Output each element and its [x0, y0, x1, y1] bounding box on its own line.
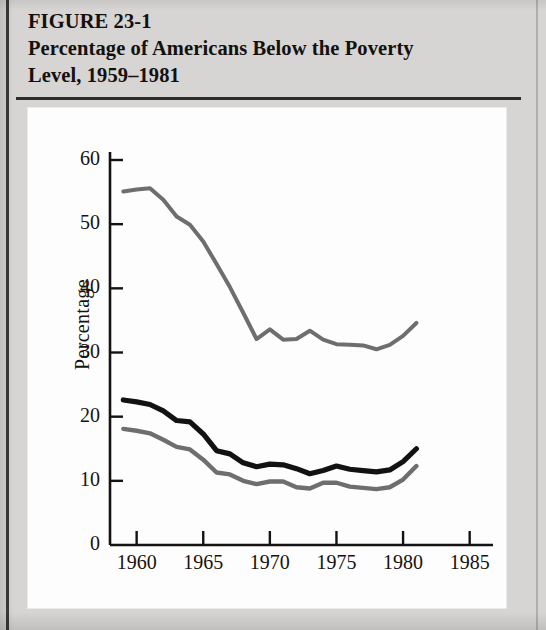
y-tick-label: 10 — [54, 468, 100, 491]
y-tick-label: 20 — [54, 404, 100, 427]
x-tick-label: 1960 — [102, 551, 172, 574]
series-upper-gray-line — [123, 188, 416, 349]
figure-caption-line-1: Percentage of Americans Below the Povert… — [28, 35, 498, 62]
figure-caption-line-2: Level, 1959–1981 — [28, 62, 498, 89]
x-tick-label: 1965 — [168, 551, 238, 574]
y-tick-label: 60 — [54, 147, 100, 170]
page-left-rule — [6, 0, 9, 630]
y-tick-label: 30 — [54, 340, 100, 363]
y-tick-label: 0 — [54, 532, 100, 555]
y-tick-label: 50 — [54, 211, 100, 234]
series-middle-black-line — [123, 400, 416, 474]
x-tick-label: 1980 — [368, 551, 438, 574]
x-tick-label: 1970 — [235, 551, 305, 574]
page-right-rule — [536, 0, 538, 630]
figure-label: FIGURE 23-1 — [28, 8, 498, 35]
x-tick-label: 1975 — [301, 551, 371, 574]
figure-title-block: FIGURE 23-1 Percentage of Americans Belo… — [28, 8, 498, 89]
figure-page: FIGURE 23-1 Percentage of Americans Belo… — [0, 0, 546, 630]
chart-panel: Percentage 01020304050601960196519701975… — [28, 108, 506, 608]
y-tick-label: 40 — [54, 275, 100, 298]
x-tick-label: 1985 — [435, 551, 505, 574]
title-divider — [16, 97, 521, 100]
series-lower-gray-line — [123, 429, 416, 489]
